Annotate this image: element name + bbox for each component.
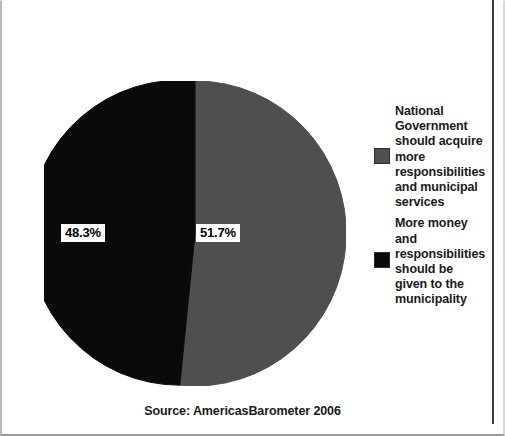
legend-label-national-government: National Government should acquire more …: [395, 104, 488, 210]
pie-value-label-national-government: 51.7%: [196, 224, 240, 242]
pie-value-label-municipality: 48.3%: [61, 224, 105, 242]
legend-swatch-gray-icon: [374, 148, 390, 164]
legend-item-municipality[interactable]: More money and responsibilities should b…: [374, 216, 488, 307]
legend-item-national-government[interactable]: National Government should acquire more …: [374, 104, 488, 210]
legend-label-municipality: More money and responsibilities should b…: [395, 216, 488, 307]
pie-chart-figure: 48.3% 51.7% National Government should a…: [0, 0, 505, 436]
figure-right-divider: [492, 0, 494, 424]
legend-swatch-black-icon: [374, 252, 390, 268]
chart-legend: National Government should acquire more …: [374, 104, 488, 314]
chart-source-note: Source: AmericasBarometer 2006: [0, 404, 485, 418]
